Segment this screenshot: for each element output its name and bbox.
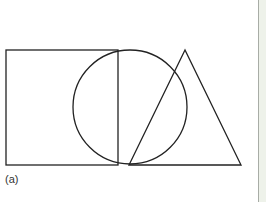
side-panel [259,0,266,202]
geometry-figure [0,0,258,202]
figure-canvas: (a) [0,0,258,202]
square-shape [6,50,118,165]
figure-label: (a) [5,173,18,185]
circle-shape [73,50,187,164]
triangle-shape [129,50,241,165]
